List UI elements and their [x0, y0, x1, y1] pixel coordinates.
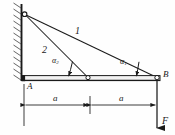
beam-group	[22, 76, 160, 81]
point-b-label: B	[163, 70, 169, 79]
dimension-right-label: a	[119, 94, 124, 103]
diagram-canvas	[0, 0, 175, 135]
statics-diagram: 1 2 α2 α1 A B a a F	[0, 0, 175, 135]
top-pin-joint	[22, 12, 27, 17]
member-2-label: 2	[42, 45, 47, 55]
point-a-label: A	[27, 82, 33, 91]
angle-alpha1-label: α1	[120, 58, 127, 66]
mid-pin-joint	[86, 76, 90, 80]
alpha1-subscript: 1	[124, 61, 126, 66]
angle-alpha2-label: α2	[52, 57, 59, 65]
dimension-left-label: a	[53, 94, 58, 103]
wall-group	[14, 3, 22, 81]
alpha2-subscript: 2	[56, 60, 58, 65]
member-2-line	[25, 15, 88, 78]
member-1-label: 1	[75, 26, 80, 36]
b-pin-joint	[155, 75, 159, 79]
wall-hatching	[14, 3, 22, 80]
dimension-group	[24, 84, 156, 126]
wall-beam-connection	[22, 75, 26, 81]
alpha2-arc	[69, 62, 73, 77]
force-F-label: F	[162, 116, 168, 126]
